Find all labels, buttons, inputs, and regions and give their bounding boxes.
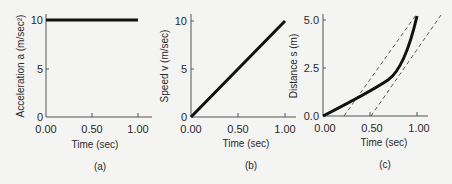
svg-text:0: 0	[37, 111, 43, 123]
svg-text:0.50: 0.50	[361, 122, 382, 134]
y-axis-label: Acceleration a (m/sec²)	[15, 15, 26, 118]
caption-b: (b)	[245, 160, 257, 171]
svg-text:2.5: 2.5	[304, 62, 319, 74]
svg-text:10: 10	[175, 15, 187, 27]
svg-text:0.00: 0.00	[180, 123, 201, 135]
x-axis-label: Time (sec)	[223, 138, 270, 149]
svg-text:5: 5	[181, 63, 187, 75]
svg-text:1.00: 1.00	[408, 122, 429, 134]
svg-text:0.00: 0.00	[314, 122, 335, 134]
panel-c: 5.0 2.5 0.0 0.00 0.50 1.00 Time (sec) Di…	[288, 14, 441, 170]
figure: 10 5 0 0.00 0.50 1.00 Time (sec) Acceler…	[0, 0, 452, 184]
caption-c: (c)	[379, 159, 391, 170]
tangent-line-2	[371, 15, 441, 116]
y-axis-label: Distance s (m)	[288, 34, 299, 98]
caption-a: (a)	[94, 161, 106, 172]
y-axis-label: Speed v (m/sec)	[159, 30, 170, 103]
svg-text:0.00: 0.00	[35, 123, 56, 135]
svg-text:0: 0	[181, 111, 187, 123]
distance-curve	[323, 16, 417, 116]
svg-text:1.00: 1.00	[274, 123, 295, 135]
svg-text:0.0: 0.0	[304, 110, 319, 122]
svg-text:5: 5	[37, 63, 43, 75]
speed-line	[191, 21, 285, 117]
svg-text:0.50: 0.50	[81, 123, 102, 135]
x-axis-label: Time (sec)	[72, 139, 119, 150]
svg-text:10: 10	[31, 14, 43, 26]
svg-text:5.0: 5.0	[304, 14, 319, 26]
svg-text:1.00: 1.00	[127, 123, 148, 135]
x-axis-label: Time (sec)	[361, 137, 408, 148]
panel-b: 10 5 0 0.00 0.50 1.00 Time (sec) Speed v…	[159, 14, 296, 171]
svg-text:0.50: 0.50	[227, 123, 248, 135]
panel-a: 10 5 0 0.00 0.50 1.00 Time (sec) Acceler…	[15, 14, 152, 172]
